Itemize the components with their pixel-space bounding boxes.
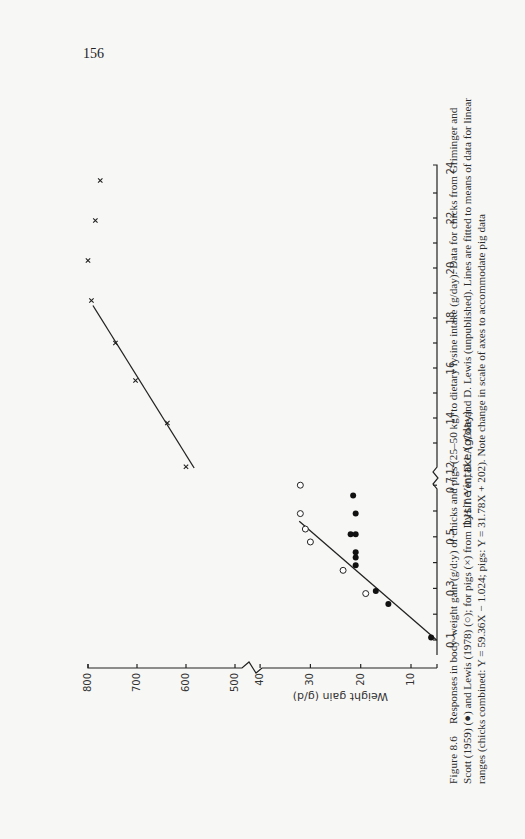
open-circle-marker — [363, 591, 369, 597]
cross-marker — [184, 465, 188, 469]
filled-circle-marker — [353, 549, 359, 555]
y-tick-label: 10 — [405, 673, 416, 686]
y-tick-label: 40 — [254, 673, 265, 686]
y-tick-label: 600 — [180, 673, 191, 692]
caption-line-2: Scott (1959) (●) and Lewis (1978) (○); f… — [460, 44, 474, 784]
chart-axes — [88, 165, 438, 673]
figure-caption: Figure 8.6Responses in body-weight gain … — [446, 44, 489, 784]
filled-circle-marker — [350, 493, 356, 499]
cross-marker — [133, 378, 137, 382]
pig-fit-line — [93, 306, 194, 469]
x-axis-line — [433, 165, 438, 655]
y-tick-label: 800 — [82, 673, 93, 692]
filled-circle-marker — [353, 562, 359, 568]
filled-circle-marker — [385, 601, 391, 607]
y-axis-title: Weight gain (g/d) — [293, 690, 388, 703]
y-axis-line — [88, 662, 437, 673]
cross-marker — [93, 218, 97, 222]
filled-circle-marker — [373, 588, 379, 594]
caption-line-3: ranges (chicks combined: Y = 59.36X − 1.… — [474, 44, 488, 784]
chick-fit-line — [299, 521, 436, 640]
y-tick-label: 30 — [304, 673, 315, 686]
y-tick-label: 700 — [131, 673, 142, 692]
open-circle-marker — [302, 526, 308, 532]
figure-label: Figure 8.6 — [447, 736, 459, 784]
fitted-lines — [93, 306, 437, 641]
filled-circle-marker — [428, 634, 434, 640]
cross-marker — [98, 178, 102, 182]
open-circle-marker — [297, 482, 303, 488]
caption-line-1: Responses in body-weight gain (g/d:y) of… — [447, 108, 459, 724]
filled-circle-marker — [353, 531, 359, 537]
y-tick-label: 500 — [229, 673, 240, 692]
filled-circle-marker — [353, 554, 359, 560]
cross-marker — [89, 298, 93, 302]
open-circle-marker — [307, 539, 313, 545]
open-circle-marker — [340, 567, 346, 573]
filled-circle-marker — [353, 511, 359, 517]
y-tick-label: 20 — [355, 673, 366, 686]
open-circle-marker — [297, 511, 303, 517]
cross-marker — [86, 258, 90, 262]
data-points — [86, 178, 434, 640]
